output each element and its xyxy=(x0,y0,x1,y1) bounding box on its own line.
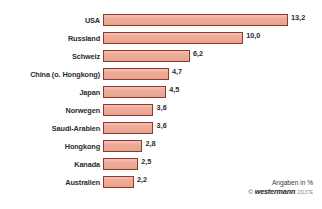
bar xyxy=(103,14,288,26)
reference-code: 23137E xyxy=(297,188,313,197)
category-label: USA xyxy=(0,16,100,25)
bar xyxy=(103,104,153,116)
value-label: 2,5 xyxy=(141,157,151,167)
bar xyxy=(103,50,190,62)
value-label: 13,2 xyxy=(291,13,305,23)
category-label: Japan xyxy=(0,88,100,97)
bar-track xyxy=(103,86,166,98)
publisher-name: westermann xyxy=(255,187,295,196)
bar xyxy=(103,140,142,152)
value-label: 10,0 xyxy=(246,31,260,41)
copyright-icon: © xyxy=(248,187,253,196)
bar-row: Japan 4,5 xyxy=(0,83,322,101)
unit-note: Angaben in % xyxy=(248,178,313,187)
bar-row: Norwegen 3,6 xyxy=(0,101,322,119)
bar-track xyxy=(103,14,288,26)
bar-row: Kanada 2,5 xyxy=(0,155,322,173)
value-label: 2,2 xyxy=(137,175,147,185)
bar xyxy=(103,176,134,188)
bar xyxy=(103,158,138,170)
chart-plot-area: USA 13,2 Russland 10,0 Schweiz 6,2 China… xyxy=(0,11,322,191)
bar-track xyxy=(103,50,190,62)
value-label: 4,7 xyxy=(172,67,182,77)
bar-row: China (o. Hongkong) 4,7 xyxy=(0,65,322,83)
category-label: Russland xyxy=(0,34,100,43)
bar-track xyxy=(103,176,134,188)
bar-track xyxy=(103,104,153,116)
category-label: Schweiz xyxy=(0,52,100,61)
bar xyxy=(103,86,166,98)
category-label: Norwegen xyxy=(0,106,100,115)
bar-track xyxy=(103,140,142,152)
category-label: China (o. Hongkong) xyxy=(0,70,100,79)
category-label: Hongkong xyxy=(0,142,100,151)
bar-row: Hongkong 2,8 xyxy=(0,137,322,155)
bar-row: USA 13,2 xyxy=(0,11,322,29)
value-label: 4,5 xyxy=(169,85,179,95)
value-label: 2,8 xyxy=(145,139,155,149)
value-label: 6,2 xyxy=(193,49,203,59)
bar-row: Russland 10,0 xyxy=(0,29,322,47)
category-label: Saudi-Arabien xyxy=(0,124,100,133)
bar-track xyxy=(103,32,243,44)
bar-row: Schweiz 6,2 xyxy=(0,47,322,65)
value-label: 3,6 xyxy=(157,121,167,131)
publisher-credit: © westermann 23137E xyxy=(248,187,313,197)
bar-track xyxy=(103,158,138,170)
bar xyxy=(103,32,243,44)
bar xyxy=(103,68,169,80)
bar xyxy=(103,122,153,134)
bar-track xyxy=(103,122,153,134)
value-label: 3,6 xyxy=(157,103,167,113)
bar-row: Saudi-Arabien 3,6 xyxy=(0,119,322,137)
category-label: Kanada xyxy=(0,160,100,169)
bar-chart: USA 13,2 Russland 10,0 Schweiz 6,2 China… xyxy=(0,0,322,209)
category-label: Australien xyxy=(0,178,100,187)
bar-track xyxy=(103,68,169,80)
chart-footer: Angaben in % © westermann 23137E xyxy=(248,178,313,197)
